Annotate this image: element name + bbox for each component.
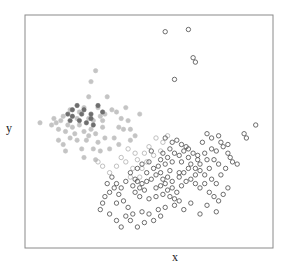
data-point [128, 138, 132, 142]
data-point [68, 118, 72, 122]
data-point [63, 149, 67, 153]
data-point [93, 132, 97, 136]
data-point [70, 125, 74, 129]
data-point [138, 112, 142, 116]
data-point [119, 116, 123, 120]
data-point [126, 118, 130, 122]
data-point [38, 121, 42, 125]
data-point [68, 136, 72, 140]
data-point [114, 110, 118, 114]
data-point [117, 125, 121, 129]
data-point [87, 95, 91, 99]
data-point [100, 118, 104, 122]
x-axis-label: x [172, 250, 178, 265]
data-point [89, 127, 93, 131]
data-point [110, 108, 114, 112]
data-point [96, 103, 100, 107]
data-point [52, 116, 56, 120]
plot-frame [25, 15, 273, 248]
data-point [49, 123, 53, 127]
data-point [54, 121, 58, 125]
data-point [128, 127, 132, 131]
data-point [73, 132, 77, 136]
data-point [89, 79, 93, 83]
data-point [89, 116, 93, 120]
data-point [117, 142, 121, 146]
data-point [59, 118, 63, 122]
data-point [103, 136, 107, 140]
scatter-plot [0, 0, 288, 275]
data-point [61, 114, 65, 118]
data-point [93, 69, 97, 73]
data-point [77, 118, 81, 122]
data-point [80, 112, 84, 116]
data-point [75, 138, 79, 142]
data-point [77, 123, 81, 127]
data-point [66, 112, 70, 116]
data-point [107, 147, 111, 151]
data-point [89, 112, 93, 116]
y-axis-label: y [6, 121, 12, 136]
data-point [91, 123, 95, 127]
data-point [105, 95, 109, 99]
data-point [121, 127, 125, 131]
data-point [82, 155, 86, 159]
data-point [100, 110, 104, 114]
data-point [98, 149, 102, 153]
data-point [124, 105, 128, 109]
data-point [87, 134, 91, 138]
data-point [66, 123, 70, 127]
data-point [61, 142, 65, 146]
data-point [84, 121, 88, 125]
data-point [56, 127, 60, 131]
data-point [133, 134, 137, 138]
data-point [98, 114, 102, 118]
data-point [70, 114, 74, 118]
data-point [100, 125, 104, 129]
data-point [80, 147, 84, 151]
data-point [56, 138, 60, 142]
data-point [82, 108, 86, 112]
data-point [112, 136, 116, 140]
data-point [84, 138, 88, 142]
data-point [70, 108, 74, 112]
data-point [75, 103, 79, 107]
data-point [63, 129, 67, 133]
data-point [96, 140, 100, 144]
data-point [82, 129, 86, 133]
data-point [91, 147, 95, 151]
